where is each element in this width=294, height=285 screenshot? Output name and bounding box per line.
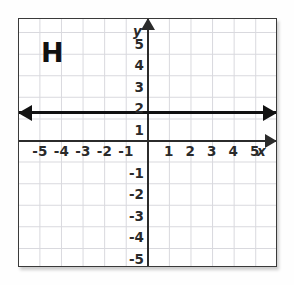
- y-axis-arrow-icon: [141, 18, 155, 30]
- x-tick-label-1: 1: [157, 145, 181, 159]
- y-tick-label-5: 5: [120, 38, 144, 52]
- y-tick-label--1: -1: [120, 167, 144, 181]
- x-tick-label--5: -5: [28, 145, 52, 159]
- y-tick-label--5: -5: [120, 253, 144, 267]
- screenshot-canvas: H y x -5 -4 -3 -2 -1 1 2 3 4 5 5 4 3 2 1…: [0, 0, 294, 285]
- y-axis: [147, 19, 149, 266]
- line-right-arrow-icon: [263, 105, 277, 121]
- plotted-line: [19, 111, 276, 114]
- x-tick-label-5: 5: [243, 145, 267, 159]
- y-tick-label-4: 4: [120, 59, 144, 73]
- x-tick-label--2: -2: [92, 145, 116, 159]
- x-tick-label-4: 4: [221, 145, 245, 159]
- line-left-arrow-icon: [18, 105, 32, 121]
- y-tick-label--4: -4: [120, 231, 144, 245]
- y-tick-label-1: 1: [120, 124, 144, 138]
- y-tick-label--3: -3: [120, 210, 144, 224]
- x-tick-label--4: -4: [49, 145, 73, 159]
- x-tick-label-3: 3: [200, 145, 224, 159]
- x-axis-arrow-icon: [265, 134, 277, 148]
- x-tick-label-2: 2: [178, 145, 202, 159]
- y-tick-label-3: 3: [120, 81, 144, 95]
- coordinate-plane: H y x -5 -4 -3 -2 -1 1 2 3 4 5 5 4 3 2 1…: [18, 18, 277, 267]
- x-tick-label--3: -3: [71, 145, 95, 159]
- x-tick-label--1: -1: [114, 145, 138, 159]
- y-tick-label-2: 2: [120, 102, 144, 116]
- figure-label-h: H: [41, 39, 64, 66]
- y-tick-label--2: -2: [120, 188, 144, 202]
